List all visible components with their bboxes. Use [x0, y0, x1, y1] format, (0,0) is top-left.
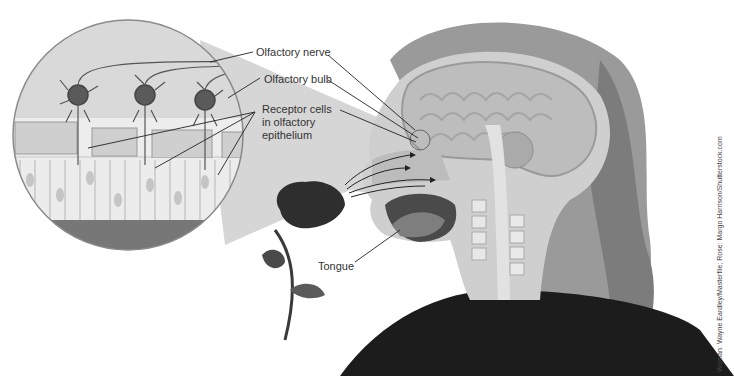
illustration: [0, 0, 734, 376]
shirt: [340, 290, 734, 376]
label-receptor-cells-line2: in olfactory: [262, 116, 332, 129]
olfaction-figure: Olfactory nerve Olfactory bulb Receptor …: [0, 0, 734, 376]
magnified-epithelium: [0, 0, 260, 260]
label-olfactory-bulb: Olfactory bulb: [264, 73, 332, 86]
label-receptor-cells-line1: Receptor cells: [262, 103, 332, 116]
label-tongue: Tongue: [318, 260, 354, 273]
photo-credit: Woman: Wayne Eardley/Masterfile; Rose: M…: [716, 136, 723, 372]
label-receptor-cells-line3: epithelium: [262, 129, 332, 142]
label-olfactory-nerve: Olfactory nerve: [256, 46, 331, 59]
label-receptor-cells: Receptor cells in olfactory epithelium: [262, 103, 332, 142]
